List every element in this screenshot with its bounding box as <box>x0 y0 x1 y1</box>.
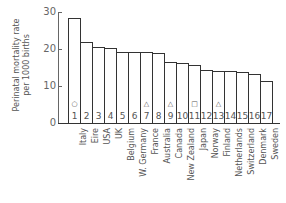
y-tick <box>58 12 62 13</box>
x-tick-label: W. Germany <box>129 128 141 203</box>
y-axis-label: Perinatal mortality rate per 1000 births <box>2 0 42 130</box>
y-tick <box>58 86 62 87</box>
y-axis <box>58 12 59 123</box>
y-axis-label-line2: per 1000 births <box>22 19 32 112</box>
x-tick-label: Eire <box>81 128 93 203</box>
x-tick-label: Denmark <box>249 128 261 203</box>
x-tick-label: Italy <box>69 128 81 203</box>
x-tick-label: Japan <box>189 128 201 203</box>
x-tick-label: Switzerland <box>237 128 249 203</box>
x-tick-label: New Zealand <box>177 128 189 203</box>
x-tick-label: Finland <box>213 128 225 203</box>
bar-number: 17 <box>260 111 273 121</box>
x-tick-label: USA <box>93 128 105 203</box>
x-tick-label: Australia <box>153 128 165 203</box>
y-tick-label: 10 <box>36 81 56 91</box>
x-tick-label: Norway <box>201 128 213 203</box>
x-tick-label: Netherlands <box>225 128 237 203</box>
y-tick-label: 0 <box>36 118 56 128</box>
x-tick-label: Canada <box>165 128 177 203</box>
y-axis-label-line1: Perinatal mortality rate <box>12 19 22 112</box>
x-baseline <box>58 123 280 124</box>
y-tick-label: 20 <box>36 44 56 54</box>
y-tick-label: 30 <box>36 7 56 17</box>
y-tick <box>58 49 62 50</box>
x-tick-label: Sweden <box>261 128 273 203</box>
x-tick-label: France <box>141 128 153 203</box>
x-tick-label: Belgium <box>117 128 129 203</box>
x-tick-label: UK <box>105 128 117 203</box>
